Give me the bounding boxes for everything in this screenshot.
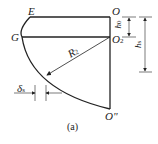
- label-E: E: [28, 6, 35, 17]
- label-O: O: [112, 6, 120, 17]
- label-O2: O2: [112, 34, 123, 45]
- label-delta-s: δs: [17, 83, 25, 94]
- figure-caption: (a): [67, 122, 78, 132]
- label-h0: h0: [114, 21, 123, 29]
- radius-arrow: [47, 37, 110, 75]
- diagram-figure: [0, 0, 158, 144]
- label-hs: hs: [134, 41, 143, 48]
- label-G: G: [11, 32, 19, 43]
- arc-curve: [21, 17, 110, 109]
- label-O-double-prime: O": [105, 111, 118, 122]
